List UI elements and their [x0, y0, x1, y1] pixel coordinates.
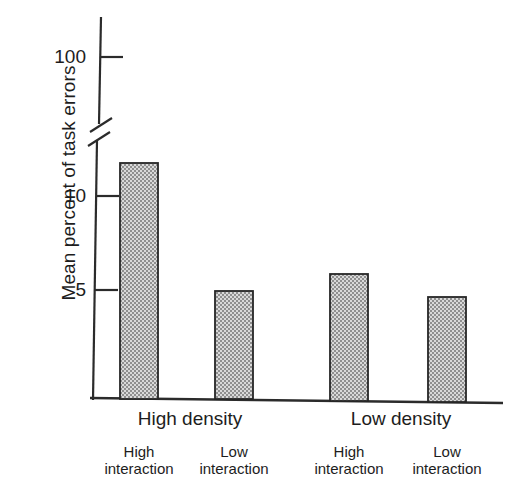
bar-low-density-low-interaction	[428, 297, 466, 402]
y-tick-label-100: 100	[28, 46, 86, 68]
condition-label-line1: High	[293, 443, 405, 460]
condition-label-line1: Low	[178, 443, 290, 460]
bar-low-density-high-interaction	[330, 274, 368, 401]
y-tick-label-10: 10	[28, 185, 86, 207]
axis-break-upper-slash	[90, 118, 112, 132]
group-label-high-density: High density	[105, 408, 275, 430]
condition-label-low-density-low-interaction: Low interaction	[391, 443, 503, 477]
chart-figure: Mean percent of task errors 100 10 5 Hig…	[0, 0, 510, 484]
y-axis-upper-segment	[99, 17, 101, 124]
bar-high-density-high-interaction	[120, 163, 158, 399]
condition-label-low-density-high-interaction: High interaction	[293, 443, 405, 477]
y-axis-lower-segment	[93, 140, 97, 400]
condition-label-line2: interaction	[293, 460, 405, 477]
y-tick-label-5: 5	[28, 279, 86, 301]
condition-label-line2: interaction	[178, 460, 290, 477]
bar-high-density-low-interaction	[215, 291, 253, 399]
condition-label-line2: interaction	[391, 460, 503, 477]
condition-label-high-density-low-interaction: Low interaction	[178, 443, 290, 477]
condition-label-line1: Low	[391, 443, 503, 460]
group-label-low-density: Low density	[316, 408, 486, 430]
axis-break-lower-slash	[88, 132, 110, 146]
